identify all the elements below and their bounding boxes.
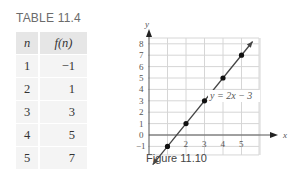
y-tick-label: 0 <box>139 130 144 140</box>
data-point <box>239 53 244 58</box>
y-axis-arrow-icon <box>146 29 152 37</box>
equation-label: y = 2x − 3 <box>209 90 252 101</box>
x-axis-arrow-icon <box>270 132 278 138</box>
y-tick-label: 5 <box>139 73 144 83</box>
x-tick-label: 2 <box>184 139 189 149</box>
data-point <box>165 144 170 149</box>
y-tick-label: 7 <box>139 50 144 60</box>
figure-caption: Figure 11.10 <box>146 152 207 164</box>
y-axis-label: y <box>144 19 149 29</box>
x-axis-label: x <box>282 130 287 140</box>
y-tick-label: 3 <box>139 96 144 106</box>
y-tick-label: 8 <box>139 39 144 49</box>
y-tick-label: 4 <box>139 84 144 94</box>
x-tick-label: 3 <box>202 139 207 149</box>
y-tick-label: 6 <box>139 62 144 72</box>
line-graph: yx−10123456782345y = 2x − 3 <box>0 0 306 193</box>
x-tick-label: 4 <box>221 139 226 149</box>
y-tick-label: 2 <box>139 107 144 117</box>
data-point <box>202 98 207 103</box>
y-tick-label: 1 <box>139 119 144 129</box>
y-tick-label: −1 <box>136 141 146 151</box>
x-tick-label: 5 <box>239 139 244 149</box>
data-point <box>220 75 225 80</box>
data-point <box>183 121 188 126</box>
